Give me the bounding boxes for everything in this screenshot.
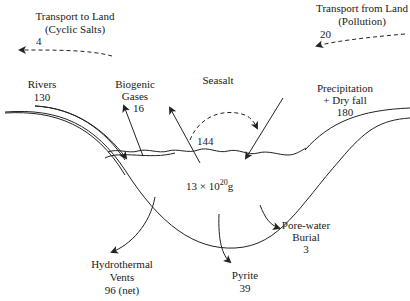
- seasalt-value: 144: [197, 135, 214, 147]
- porewater-label-1: Pore-water: [282, 219, 331, 231]
- transport-to-land-label-2: (Cyclic Salts): [45, 23, 106, 36]
- hydrothermal-arrow: [112, 197, 155, 252]
- precipitation-value: 180: [337, 106, 354, 118]
- porewater-arrow: [260, 205, 279, 228]
- reservoir-mass: 13 × 1020g: [186, 178, 234, 192]
- basin-right-wall: [305, 108, 410, 150]
- sea-surface: [108, 148, 306, 155]
- pyrite-arrow: [219, 214, 230, 262]
- transport-to-land-value: 4: [36, 35, 42, 47]
- rivers-value: 130: [34, 91, 51, 103]
- biogenic-gases-value: 16: [133, 102, 145, 114]
- transport-to-land-label-1: Transport to Land: [35, 10, 115, 22]
- hydrothermal-label-2: Vents: [110, 271, 134, 283]
- transport-from-land-value: 20: [320, 28, 332, 40]
- hydrothermal-label-1: Hydrothermal: [91, 258, 153, 270]
- biogenic-gases-label-2: Gases: [122, 90, 148, 102]
- ocean-sulfur-cycle-diagram: Transport to Land (Cyclic Salts) 4 Trans…: [0, 0, 410, 301]
- basin-left-wall: [5, 113, 125, 175]
- seasalt-label: Seasalt: [202, 74, 233, 86]
- seasalt-arrow: [170, 108, 200, 163]
- ocean-basin: [5, 106, 410, 248]
- precipitation-label-2: + Dry fall: [323, 94, 366, 106]
- porewater-label-2: Burial: [292, 231, 320, 243]
- transport-to-land-arrow: [20, 50, 112, 56]
- hydrothermal-value: 96 (net): [105, 284, 140, 297]
- precipitation-arrow: [246, 98, 283, 158]
- porewater-value: 3: [303, 243, 309, 255]
- pyrite-value: 39: [240, 282, 252, 294]
- precipitation-label-1: Precipitation: [317, 82, 374, 94]
- transport-from-land-label-2: (Pollution): [338, 15, 386, 28]
- pyrite-label: Pyrite: [232, 269, 258, 281]
- transport-from-land-label-1: Transport from Land: [316, 2, 408, 14]
- biogenic-gases-label-1: Biogenic: [115, 78, 155, 90]
- rivers-label: Rivers: [28, 78, 57, 90]
